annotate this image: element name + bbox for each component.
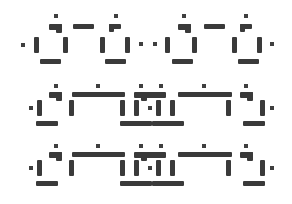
r1-bar-v-c1 xyxy=(165,37,170,53)
r3-dot-5 xyxy=(202,144,206,148)
r3-dot-3 xyxy=(139,144,143,148)
r2-corner-3 xyxy=(146,92,166,98)
r1-bar-h-top-a xyxy=(73,24,94,29)
r3-bar-v-8 xyxy=(260,160,265,176)
r1-bar-h-b xyxy=(105,59,126,64)
r1-bar-v-d1 xyxy=(232,37,237,53)
r1-bar-v-a1 xyxy=(34,37,39,53)
r3-dot-side-2 xyxy=(270,166,274,170)
r3-bar-long-2 xyxy=(178,152,232,157)
pattern-layer xyxy=(21,14,274,186)
r3-corner-1-tail xyxy=(56,152,62,161)
r2-dot-2 xyxy=(96,84,100,88)
r3-bar-v-5 xyxy=(156,160,161,176)
r2-bar-h-2 xyxy=(120,121,152,126)
r3-bar-h-1 xyxy=(36,181,58,186)
r3-corner-4-tail xyxy=(247,152,253,161)
r2-bar-v-7 xyxy=(226,100,231,116)
r2-bar-long-1 xyxy=(72,92,125,97)
r3-bar-v-7 xyxy=(226,160,231,176)
r1-dot-d xyxy=(244,14,248,18)
r1-dot-a xyxy=(54,14,58,18)
r3-bar-h-4 xyxy=(243,181,265,186)
r1-corner-c-tail xyxy=(185,24,191,33)
r3-dot-1 xyxy=(54,144,58,148)
r2-bar-v-1 xyxy=(37,100,42,116)
r1-bar-v-b2 xyxy=(125,37,130,53)
r1-bar-v-b1 xyxy=(100,37,105,53)
r3-bar-v-3 xyxy=(120,160,125,176)
r1-bar-h-top-c xyxy=(204,24,225,29)
r3-bar-h-3 xyxy=(152,181,184,186)
r1-dot-side-c xyxy=(153,42,157,46)
r1-dot-side-d xyxy=(270,42,274,46)
r2-dot-side-1 xyxy=(29,106,33,110)
r3-corner-3 xyxy=(146,152,166,158)
r3-bar-v-1 xyxy=(37,160,42,176)
r3-bar-long-1 xyxy=(72,152,125,157)
r2-dot-4 xyxy=(159,84,163,88)
r3-bar-v-2 xyxy=(69,160,74,176)
r2-bar-v-3 xyxy=(120,100,125,116)
r1-corner-a-tail xyxy=(56,24,62,33)
r2-bar-v-4 xyxy=(134,100,139,116)
r1-bar-v-c2 xyxy=(192,37,197,53)
r3-dot-6 xyxy=(244,144,248,148)
r2-dot-mid xyxy=(148,106,152,110)
r3-dot-side-1 xyxy=(29,166,33,170)
r3-bar-v-4 xyxy=(134,160,139,176)
pattern-canvas xyxy=(0,0,292,204)
r1-bar-h-c xyxy=(172,59,193,64)
r2-dot-side-2 xyxy=(270,106,274,110)
r3-bar-v-6 xyxy=(170,160,175,176)
r1-bar-v-d2 xyxy=(257,37,262,53)
r2-bar-v-6 xyxy=(170,100,175,116)
r1-dot-side-b xyxy=(139,42,143,46)
r2-bar-h-1 xyxy=(36,121,58,126)
r2-dot-1 xyxy=(54,84,58,88)
r2-bar-long-2 xyxy=(178,92,232,97)
r2-corner-4-tail xyxy=(247,92,253,101)
r3-dot-4 xyxy=(159,144,163,148)
r3-dot-mid xyxy=(148,166,152,170)
r1-bar-v-a2 xyxy=(63,37,68,53)
r2-corner-1-tail xyxy=(56,92,62,101)
r2-bar-h-3 xyxy=(152,121,184,126)
r2-bar-v-2 xyxy=(69,100,74,116)
r1-corner-b-tail xyxy=(109,24,114,32)
r3-dot-2 xyxy=(96,144,100,148)
r2-dot-6 xyxy=(244,84,248,88)
r2-bar-v-5 xyxy=(156,100,161,116)
r2-bar-h-4 xyxy=(243,121,265,126)
r1-dot-c xyxy=(182,14,186,18)
r1-dot-b xyxy=(114,14,118,18)
r1-dot-side-a xyxy=(21,43,25,47)
r1-corner-d-tail xyxy=(240,24,245,32)
r2-bar-v-8 xyxy=(260,100,265,116)
r3-bar-h-2 xyxy=(120,181,152,186)
r2-dot-3 xyxy=(139,84,143,88)
r1-bar-h-a xyxy=(40,59,61,64)
r1-bar-h-d xyxy=(238,59,259,64)
r2-dot-5 xyxy=(202,84,206,88)
